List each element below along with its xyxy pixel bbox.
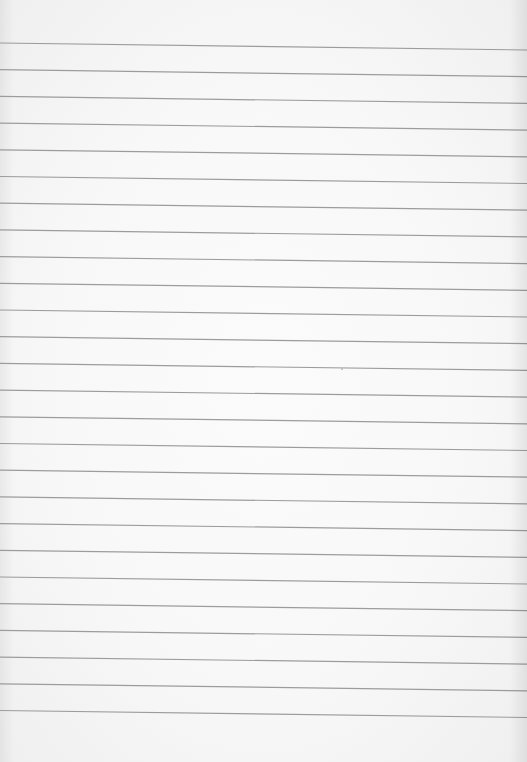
lined-paper-sheet [0, 0, 527, 762]
ruled-line [0, 283, 527, 290]
ruled-line [0, 604, 527, 611]
ruled-line [0, 444, 527, 451]
ruled-line [0, 630, 527, 637]
ruled-line [0, 96, 527, 103]
ruled-line [0, 257, 527, 264]
ruled-line [0, 497, 527, 504]
ruled-line [0, 470, 527, 477]
ruled-line [0, 310, 527, 317]
ruled-line [0, 203, 527, 210]
ruled-line [0, 577, 527, 584]
ruled-line [0, 177, 527, 184]
ruled-line [0, 684, 527, 691]
ruled-line [0, 337, 527, 344]
ruled-line [0, 524, 527, 531]
ruled-line [0, 550, 527, 557]
ruled-line [0, 123, 527, 130]
ruled-line [0, 711, 527, 718]
ruled-line [0, 417, 527, 424]
ruled-line [0, 230, 527, 237]
ruled-line [0, 363, 527, 370]
ruled-line [0, 43, 527, 50]
ruled-line [0, 70, 527, 77]
ruled-line [0, 657, 527, 664]
ruled-lines [0, 0, 527, 762]
ruled-line [0, 390, 527, 397]
ruled-line [0, 150, 527, 157]
paper-speck [341, 368, 343, 370]
